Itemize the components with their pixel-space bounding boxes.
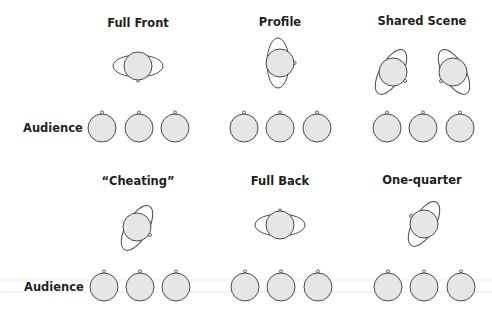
actor-cheating: [115, 201, 159, 255]
head-icon: [266, 211, 294, 239]
audience-member: [374, 270, 402, 301]
audience-row-top: [88, 111, 474, 142]
actor-one-quarter: [402, 197, 446, 251]
audience-member: [303, 111, 331, 142]
audience-label-bottom: Audience: [24, 280, 84, 294]
panel-title-shared-scene: Shared Scene: [378, 14, 467, 28]
audience-member: [410, 270, 438, 301]
panel-title-full-front: Full Front: [107, 16, 169, 30]
audience-row-bottom: [90, 270, 475, 301]
audience-member: [266, 111, 294, 142]
audience-label-top: Audience: [23, 121, 83, 135]
audience-member: [267, 270, 295, 301]
audience-member: [88, 111, 116, 142]
audience-member: [230, 111, 258, 142]
head-icon: [266, 49, 294, 77]
panel-title-cheating: “Cheating”: [101, 174, 174, 188]
audience-member: [447, 270, 475, 301]
panel-title-one-quarter: One-quarter: [382, 173, 462, 187]
audience-member: [409, 111, 437, 142]
head-icon: [124, 52, 152, 80]
actor-profile: [266, 38, 296, 88]
actor-shared-scene-left: [369, 45, 413, 99]
actor-full-back: [255, 209, 305, 239]
audience-member: [231, 270, 259, 301]
audience-member: [126, 270, 154, 301]
head-icon: [410, 210, 438, 238]
audience-member: [125, 111, 153, 142]
panel-title-full-back: Full Back: [251, 174, 310, 188]
actor-shared-scene-right: [432, 45, 476, 99]
actor-full-front: [113, 52, 163, 82]
audience-member: [304, 270, 332, 301]
audience-member: [446, 111, 474, 142]
stage-positions-diagram: Full Front Profile Shared Scene “Cheatin…: [0, 0, 492, 309]
audience-member: [161, 111, 189, 142]
audience-member: [90, 270, 118, 301]
audience-member: [162, 270, 190, 301]
head-icon: [439, 58, 467, 86]
audience-member: [373, 111, 401, 142]
head-icon: [379, 58, 407, 86]
panel-title-profile: Profile: [259, 15, 301, 29]
head-icon: [123, 213, 151, 241]
